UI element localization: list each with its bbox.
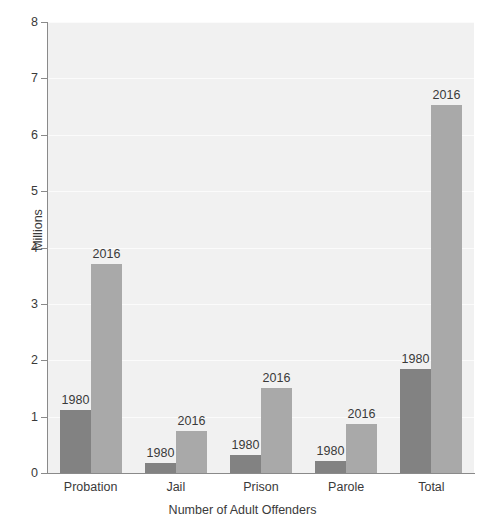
bar-label: 2016 xyxy=(252,372,301,385)
bar-label: 2016 xyxy=(337,408,386,421)
x-axis-title: Number of Adult Offenders xyxy=(0,503,485,517)
y-axis-tick-label: 2 xyxy=(12,354,38,367)
bar-label: 1980 xyxy=(221,439,270,452)
x-axis-line xyxy=(47,473,475,474)
y-axis-tick-label: 3 xyxy=(12,298,38,311)
y-axis-tick-label: 1 xyxy=(12,411,38,424)
y-axis-tick xyxy=(41,417,47,418)
y-axis-tick-label: 0 xyxy=(12,467,38,480)
bar xyxy=(261,388,292,473)
bar-label: 1980 xyxy=(306,445,355,458)
bar-label: 2016 xyxy=(422,89,471,102)
bar-label: 1980 xyxy=(51,394,100,407)
gridline xyxy=(48,135,474,136)
bar xyxy=(60,410,91,473)
bar xyxy=(230,455,261,473)
y-axis-title: Millions xyxy=(31,170,45,290)
y-axis-tick-label: 6 xyxy=(12,129,38,142)
y-axis-tick-label: 7 xyxy=(12,72,38,85)
y-axis-tick xyxy=(41,360,47,361)
gridline xyxy=(48,191,474,192)
y-axis-tick-label: 8 xyxy=(12,16,38,29)
bar xyxy=(431,105,462,473)
y-axis-line xyxy=(47,22,48,474)
gridline xyxy=(48,22,474,23)
bar-label: 2016 xyxy=(82,248,131,261)
bar-label: 2016 xyxy=(167,415,216,428)
bar xyxy=(315,461,346,473)
y-axis-tick xyxy=(41,22,47,23)
bar-label: 1980 xyxy=(391,353,440,366)
x-axis-category-label: Total xyxy=(381,481,481,495)
y-axis-tick xyxy=(41,78,47,79)
y-axis-tick xyxy=(41,135,47,136)
bar xyxy=(145,463,176,473)
bar-chart: 1980201619802016198020161980201619802016… xyxy=(0,0,485,519)
bar xyxy=(91,264,122,473)
bar-label: 1980 xyxy=(136,447,185,460)
y-axis-tick xyxy=(41,304,47,305)
bar xyxy=(400,369,431,473)
gridline xyxy=(48,78,474,79)
